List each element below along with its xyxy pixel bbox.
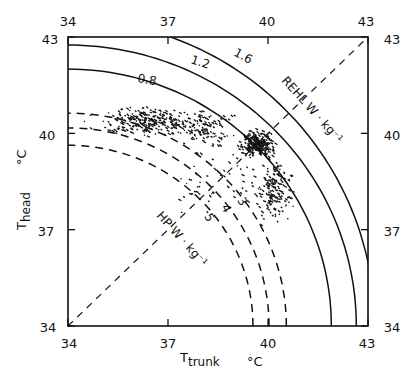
- data-point: [259, 193, 263, 196]
- data-point: [233, 196, 236, 199]
- data-point: [240, 168, 242, 170]
- rehl-isoline-1.2: [68, 45, 356, 326]
- x-axis-title-sub: trunk: [188, 355, 220, 369]
- data-point: [288, 201, 290, 203]
- data-point: [135, 110, 137, 112]
- data-point: [274, 213, 276, 215]
- data-point: [208, 200, 210, 202]
- data-point: [147, 135, 150, 137]
- data-point: [212, 158, 215, 160]
- data-point: [237, 145, 240, 148]
- data-point: [131, 113, 133, 115]
- data-point: [271, 155, 274, 158]
- x-axis-unit: °C: [247, 354, 263, 369]
- left-tick-40: 40: [39, 128, 56, 143]
- data-point: [245, 190, 248, 192]
- data-point: [253, 175, 257, 178]
- bottom-tick-43: 43: [359, 336, 376, 351]
- data-point: [213, 126, 216, 128]
- data-point: [168, 132, 172, 135]
- data-point: [181, 211, 183, 213]
- y-axis-title-sub: head: [19, 192, 33, 222]
- data-point: [183, 142, 185, 144]
- data-point: [183, 196, 185, 198]
- data-point: [178, 199, 182, 202]
- data-point: [262, 130, 266, 133]
- top-tick-34: 34: [60, 14, 77, 29]
- top-tick-37: 37: [160, 14, 177, 29]
- right-y-tick-labels: 43 40 37 34: [384, 32, 401, 335]
- bottom-tick-37: 37: [160, 336, 177, 351]
- data-point: [256, 203, 259, 206]
- data-point: [265, 139, 267, 141]
- data-point: [208, 122, 210, 124]
- data-point: [272, 215, 274, 217]
- data-point: [163, 124, 166, 127]
- data-point: [215, 135, 217, 137]
- data-point: [241, 174, 245, 177]
- data-point: [213, 120, 216, 123]
- data-point: [292, 205, 294, 207]
- data-point: [209, 195, 212, 198]
- data-point: [166, 117, 168, 119]
- data-point: [279, 168, 281, 170]
- right-tick-43: 43: [384, 32, 401, 47]
- data-point: [211, 193, 213, 195]
- data-point: [135, 120, 137, 122]
- data-point: [278, 195, 281, 198]
- data-point: [177, 119, 180, 122]
- data-point: [223, 115, 226, 118]
- label-hp-5: 5: [201, 211, 217, 224]
- data-point: [252, 168, 255, 170]
- data-point: [126, 122, 129, 125]
- data-point: [249, 157, 251, 159]
- data-point: [194, 127, 196, 129]
- hp-isoline-5: [68, 145, 253, 326]
- data-point: [186, 114, 188, 116]
- data-point: [266, 173, 268, 175]
- bottom-x-tick-labels: 34 37 40 43: [61, 336, 376, 351]
- y-axis-title: Thead °C: [14, 149, 33, 231]
- top-tick-43: 43: [358, 14, 375, 29]
- data-point: [223, 175, 226, 178]
- data-point: [199, 181, 201, 183]
- right-tick-40: 40: [384, 128, 401, 143]
- data-point: [149, 111, 152, 113]
- data-point: [261, 210, 264, 213]
- data-point: [123, 129, 126, 132]
- data-point: [210, 136, 213, 138]
- data-point: [227, 185, 230, 188]
- data-point: [217, 119, 220, 122]
- data-point: [258, 206, 261, 209]
- right-tick-37: 37: [384, 224, 401, 239]
- data-point: [84, 121, 86, 123]
- x-axis-title: Ttrunk °C: [179, 350, 263, 369]
- data-point: [104, 127, 106, 129]
- data-point: [198, 186, 200, 188]
- data-point: [226, 135, 228, 137]
- data-point: [129, 110, 131, 112]
- label-hp-4: 4: [218, 202, 234, 215]
- data-point: [189, 126, 192, 128]
- scatter-chart: 34 37 40 43 34 37 40 43 43 40 37 34 43 4…: [0, 0, 411, 381]
- data-point: [233, 135, 235, 137]
- data-point: [126, 107, 129, 110]
- data-point: [244, 142, 247, 145]
- data-point: [180, 132, 182, 134]
- data-point: [261, 215, 263, 217]
- data-point: [258, 188, 260, 190]
- data-point: [277, 210, 280, 213]
- left-tick-37: 37: [38, 224, 55, 239]
- svg-text:Thead: Thead: [14, 192, 33, 231]
- data-point: [239, 141, 242, 143]
- isolines: [68, 19, 375, 326]
- data-point: [150, 109, 152, 111]
- y-axis-title-main: T: [14, 222, 29, 231]
- data-point: [230, 114, 233, 117]
- data-point: [102, 120, 104, 122]
- data-point: [223, 169, 226, 172]
- data-point: [115, 130, 118, 133]
- data-point: [197, 186, 199, 188]
- x-axis-title-main: T: [179, 350, 188, 365]
- data-point: [184, 130, 186, 132]
